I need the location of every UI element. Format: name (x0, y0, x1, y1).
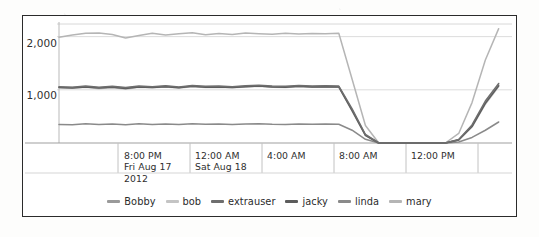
x-axis-tick-2-time: 4:00 AM (267, 150, 306, 161)
legend-swatch-icon (389, 200, 402, 202)
y-axis-label-2000: 2,000 (25, 37, 57, 49)
series-line-bobby (59, 85, 499, 143)
series-line-linda (59, 122, 499, 143)
legend-swatch-icon (107, 200, 120, 202)
series-line-extrauser (59, 83, 499, 143)
line-chart-plot (23, 16, 515, 215)
legend-swatch-icon (166, 200, 179, 202)
legend-item-bobby[interactable]: Bobby (107, 196, 155, 207)
legend-label: mary (406, 196, 432, 207)
legend-swatch-icon (211, 200, 224, 202)
x-axis-tick-0-date: Fri Aug 17 (124, 161, 171, 172)
x-axis-tick-0: 8:00 PM Fri Aug 17 2012 (124, 150, 171, 184)
legend-label: jacky (302, 196, 327, 207)
x-axis-tick-2: 4:00 AM (267, 150, 306, 161)
legend-item-mary[interactable]: mary (389, 196, 432, 207)
x-axis-tick-0-year: 2012 (124, 173, 171, 184)
chart-legend: Bobbybobextrauserjackylindamary (23, 196, 516, 207)
legend-item-jacky[interactable]: jacky (285, 196, 327, 207)
legend-item-bob[interactable]: bob (166, 196, 202, 207)
legend-label: bob (183, 196, 202, 207)
legend-label: Bobby (124, 196, 155, 207)
x-axis-tick-3: 8:00 AM (339, 150, 378, 161)
legend-item-extrauser[interactable]: extrauser (211, 196, 275, 207)
x-axis-tick-0-time: 8:00 PM (124, 150, 171, 161)
legend-label: linda (355, 196, 379, 207)
legend-item-linda[interactable]: linda (338, 196, 379, 207)
y-axis-label-1000: 1,000 (25, 89, 57, 101)
legend-label: extrauser (228, 196, 275, 207)
series-line-bob (59, 86, 499, 143)
chart-frame: 2,000 1,000 8:00 PM Fri Aug 17 2012 12:0… (22, 15, 517, 217)
chart-page: 2,000 1,000 8:00 PM Fri Aug 17 2012 12:0… (0, 0, 539, 237)
x-axis-tick-1-time: 12:00 AM (195, 150, 247, 161)
x-axis-tick-1-date: Sat Aug 18 (195, 161, 247, 172)
x-axis-tick-4-time: 12:00 PM (411, 150, 455, 161)
x-axis-tick-3-time: 8:00 AM (339, 150, 378, 161)
series-line-jacky (59, 86, 499, 143)
x-axis-tick-4: 12:00 PM (411, 150, 455, 161)
x-axis-tick-1: 12:00 AM Sat Aug 18 (195, 150, 247, 173)
legend-swatch-icon (338, 200, 351, 202)
legend-swatch-icon (285, 200, 298, 202)
